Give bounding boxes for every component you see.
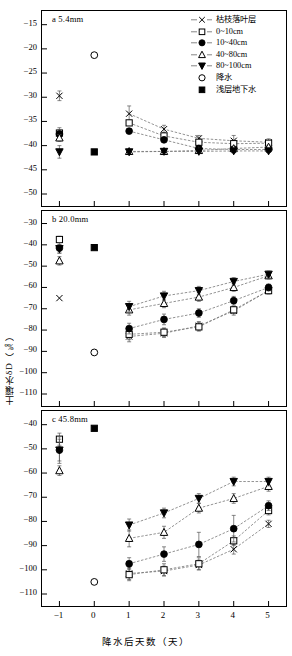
legend-symbol bbox=[178, 84, 212, 96]
y-tick-label: −70 bbox=[6, 491, 37, 500]
filled-circle-marker bbox=[195, 310, 202, 317]
open-square-marker bbox=[161, 329, 167, 335]
cross-marker bbox=[56, 295, 62, 301]
filled-triangle-down-marker bbox=[265, 478, 272, 485]
panel-c bbox=[41, 410, 287, 607]
filled-triangle-down-marker bbox=[125, 304, 132, 311]
filled-circle-marker bbox=[230, 525, 237, 532]
x-tick-label: 3 bbox=[188, 610, 208, 620]
filled-circle-marker bbox=[161, 551, 168, 558]
filled-square-marker bbox=[91, 149, 97, 155]
legend-marker-svg bbox=[178, 26, 212, 38]
open-square-marker bbox=[161, 567, 167, 573]
legend-marker-svg bbox=[178, 72, 212, 84]
filled-triangle-down-marker bbox=[230, 478, 237, 485]
legend-label: 浅层地下水 bbox=[212, 84, 256, 96]
x-tick-label: 4 bbox=[223, 610, 243, 620]
open-square-marker bbox=[196, 561, 202, 567]
y-tick-label: −25 bbox=[6, 67, 37, 76]
y-tick-label: −60 bbox=[6, 467, 37, 476]
legend-symbol bbox=[178, 37, 212, 49]
x-tick-label: 2 bbox=[153, 610, 173, 620]
legend-symbol bbox=[178, 14, 212, 26]
legend-item[interactable]: 10~40cm bbox=[178, 37, 256, 49]
filled-triangle-down-marker bbox=[160, 510, 167, 517]
open-triangle-marker bbox=[56, 257, 63, 264]
panel-c-canvas bbox=[42, 411, 286, 606]
legend-item[interactable]: 0~10cm bbox=[178, 26, 256, 38]
filled-triangle-down-marker bbox=[125, 522, 132, 529]
y-tick-label: −100 bbox=[6, 564, 37, 573]
open-square-marker bbox=[196, 324, 202, 330]
series-浅层地下水 bbox=[91, 425, 97, 431]
filled-circle-marker bbox=[265, 284, 272, 291]
legend-marker-svg bbox=[178, 37, 212, 49]
filled-circle-marker bbox=[161, 316, 168, 323]
panel-b-canvas bbox=[42, 211, 286, 406]
legend-marker-svg bbox=[178, 84, 212, 96]
y-tick-label: −50 bbox=[6, 188, 37, 197]
series-降水 bbox=[91, 52, 98, 59]
filled-circle-marker bbox=[195, 541, 202, 548]
x-tick-label: −1 bbox=[48, 610, 68, 620]
y-tick-label: −40 bbox=[6, 239, 37, 248]
open-circle-marker bbox=[91, 579, 98, 586]
legend-marker-svg bbox=[178, 14, 212, 26]
y-tick-label: −45 bbox=[6, 164, 37, 173]
y-tick-label: −100 bbox=[6, 367, 37, 376]
legend-marker-svg bbox=[178, 49, 212, 61]
y-tick-label: −70 bbox=[6, 303, 37, 312]
series-10~40cm bbox=[56, 243, 272, 334]
legend-label: 枯枝落叶层 bbox=[212, 14, 256, 26]
legend-symbol bbox=[178, 72, 212, 84]
y-tick-label: −50 bbox=[6, 260, 37, 269]
y-tick-label: −30 bbox=[6, 218, 37, 227]
x-axis-title: 降水后天数（天） bbox=[0, 634, 292, 648]
legend-item[interactable]: 枯枝落叶层 bbox=[178, 14, 256, 26]
series-浅层地下水 bbox=[91, 149, 97, 155]
open-circle-marker bbox=[199, 75, 205, 81]
y-tick-label: −90 bbox=[6, 345, 37, 354]
open-circle-marker bbox=[91, 52, 98, 59]
filled-circle-marker bbox=[126, 560, 133, 567]
open-triangle-marker bbox=[125, 534, 132, 541]
filled-circle-marker bbox=[199, 40, 205, 46]
panel-c-label: c 45.8mm bbox=[52, 414, 88, 424]
legend-label: 40~80cm bbox=[212, 49, 247, 61]
series-降水 bbox=[91, 579, 98, 586]
y-tick-label: −20 bbox=[6, 43, 37, 52]
filled-circle-marker bbox=[126, 128, 133, 135]
y-tick-label: −80 bbox=[6, 324, 37, 333]
series-10~40cm bbox=[56, 439, 272, 570]
legend-item[interactable]: 浅层地下水 bbox=[178, 84, 256, 96]
open-circle-marker bbox=[91, 349, 98, 356]
open-square-marker bbox=[231, 307, 237, 313]
legend-item[interactable]: 40~80cm bbox=[178, 49, 256, 61]
y-tick-label: −35 bbox=[6, 115, 37, 124]
filled-square-marker bbox=[199, 87, 205, 93]
y-tick-label: −40 bbox=[6, 419, 37, 428]
legend-item[interactable]: 降水 bbox=[178, 72, 256, 84]
legend-symbol bbox=[178, 49, 212, 61]
legend-label: 80~100cm bbox=[212, 60, 251, 72]
panel-b bbox=[41, 210, 287, 407]
y-tick-label: −40 bbox=[6, 140, 37, 149]
filled-triangle-down-marker bbox=[195, 495, 202, 502]
open-triangle-marker bbox=[199, 51, 206, 57]
panel-a-label: a 5.4mm bbox=[52, 14, 83, 24]
series-降水 bbox=[91, 349, 98, 356]
x-tick-label: 0 bbox=[83, 610, 103, 620]
series-40~80cm bbox=[56, 466, 273, 547]
legend-symbol bbox=[178, 26, 212, 38]
open-square-marker bbox=[126, 120, 132, 126]
filled-circle-marker bbox=[230, 297, 237, 304]
legend-item[interactable]: 80~100cm bbox=[178, 60, 256, 72]
y-tick-label: −90 bbox=[6, 540, 37, 549]
legend: 枯枝落叶层0~10cm10~40cm40~80cm80~100cm降水浅层地下水 bbox=[178, 14, 256, 95]
x-tick-label: 1 bbox=[118, 610, 138, 620]
filled-triangle-down-marker bbox=[195, 288, 202, 295]
filled-square-marker bbox=[91, 245, 97, 251]
legend-marker-svg bbox=[178, 60, 212, 72]
open-triangle-marker bbox=[56, 467, 63, 474]
x-tick-label: 5 bbox=[258, 610, 278, 620]
